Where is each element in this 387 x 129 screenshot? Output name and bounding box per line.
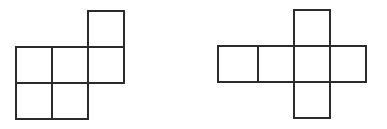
polyomino-nets-diagram — [0, 0, 387, 129]
row-square-1 — [218, 46, 258, 82]
left-polyomino-net — [16, 11, 124, 119]
lower-left-square — [16, 83, 52, 119]
row-square-4 — [330, 46, 366, 82]
right-polyomino-net — [218, 10, 366, 118]
upper-middle-square — [52, 47, 88, 83]
row-square-3 — [294, 46, 330, 82]
top-square — [294, 10, 330, 46]
upper-right-square — [88, 47, 124, 83]
bottom-square — [294, 82, 330, 118]
lower-middle-square — [52, 83, 88, 119]
upper-left-square — [16, 47, 52, 83]
row-square-2 — [258, 46, 294, 82]
figure-canvas — [0, 0, 387, 129]
top-right-square — [88, 11, 124, 47]
